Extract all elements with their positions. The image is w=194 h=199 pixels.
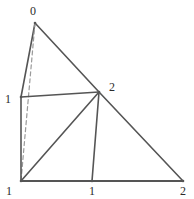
vertex-label-apex: 0 — [27, 5, 39, 17]
vertex-label-right-mid: 2 — [106, 81, 118, 93]
edge-rightmid-bottomright — [99, 92, 183, 181]
vertex-dot-layer — [20, 22, 185, 183]
edge-apex-bottomleft — [21, 23, 35, 181]
vertex-label-bottom-right: 2 — [177, 185, 189, 197]
vertex-dot-bottom-left — [20, 180, 23, 183]
diagram-svg — [0, 0, 194, 199]
vertex-label-bottom-mid: 1 — [86, 185, 98, 197]
vertex-dot-left-mid — [20, 96, 23, 99]
edge-leftmid-rightmid — [21, 92, 99, 97]
edge-layer — [21, 23, 183, 181]
vertex-dot-apex — [34, 22, 37, 25]
vertex-label-left-mid: 1 — [2, 93, 14, 105]
vertex-dot-right-mid — [98, 91, 101, 94]
figure-canvas: 011122 — [0, 0, 194, 199]
vertex-label-bottom-left: 1 — [3, 185, 15, 197]
edge-rightmid-bottommid — [92, 92, 99, 181]
vertex-dot-bottom-mid — [91, 180, 94, 183]
edge-rightmid-bottomleft — [21, 92, 99, 181]
edge-apex-leftmid — [21, 23, 35, 97]
vertex-dot-bottom-right — [182, 180, 185, 183]
edge-apex-rightmid — [35, 23, 99, 92]
